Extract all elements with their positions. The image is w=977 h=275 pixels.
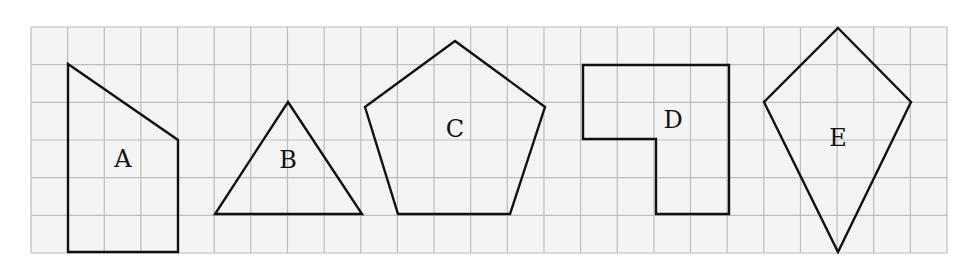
shape-d-label: D [663,106,682,134]
shape-e-label: E [829,124,847,152]
shape-c-label: C [446,115,464,143]
shapes-figure: A B C D E [0,0,977,275]
shape-b-label: B [279,146,297,174]
shape-a-label: A [113,145,132,173]
